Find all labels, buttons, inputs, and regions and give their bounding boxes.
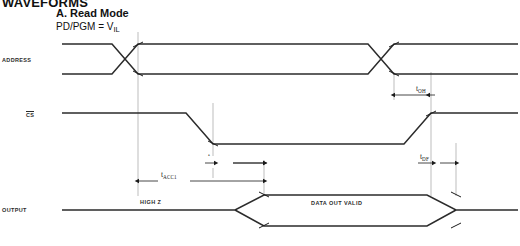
- waveform-canvas: [0, 0, 520, 246]
- address-waveform: [62, 44, 518, 74]
- cs-waveform: [62, 113, 518, 144]
- reference-guide-lines: [138, 32, 456, 196]
- tco-label-backdrop: [205, 156, 233, 168]
- output-waveform: [62, 195, 518, 226]
- timing-diagram-figure: WAVEFORMS A. Read Mode PD/PGM = VIL ADDR…: [0, 0, 520, 246]
